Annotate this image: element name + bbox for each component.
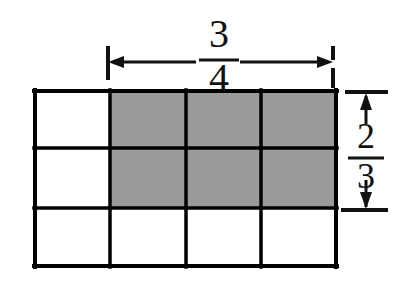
grid-cell-r3c1	[34, 208, 110, 267]
figure-canvas: 3 4 2 3	[0, 0, 399, 282]
grid-cell-r3c4	[261, 208, 337, 267]
grid-cell-r2c3	[186, 148, 261, 208]
grid-cell-r2c4	[261, 148, 337, 208]
grid-cell-r3c3	[186, 208, 261, 267]
height-fraction-denominator: 3	[357, 156, 375, 196]
grid-cell-r2c2	[110, 148, 186, 208]
grid-cell-r1c2	[110, 90, 186, 148]
width-fraction-numerator: 3	[209, 11, 229, 56]
width-fraction-denominator: 4	[209, 55, 229, 100]
grid-cell-r3c2	[110, 208, 186, 267]
fraction-area-model-figure: 3 4 2 3	[0, 0, 399, 282]
grid-cell-r2c1	[34, 148, 110, 208]
height-fraction-numerator: 2	[357, 116, 375, 156]
grid-cell-r1c4	[261, 90, 337, 148]
grid-cell-r1c1	[34, 90, 110, 148]
